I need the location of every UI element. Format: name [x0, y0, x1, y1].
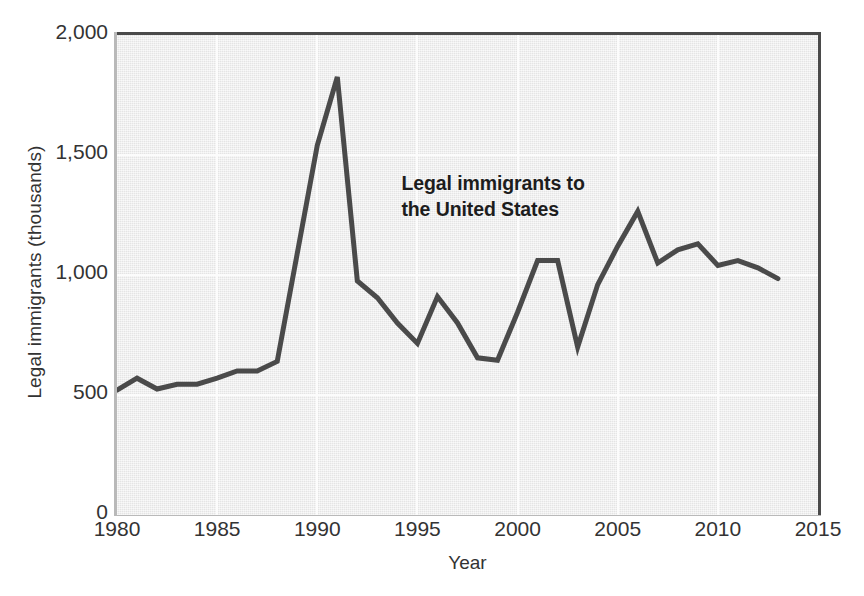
y-tick-label: 1,000: [8, 261, 108, 282]
series-line-legal-immigrants: [117, 77, 778, 390]
y-tick-label: 2,000: [8, 21, 108, 42]
y-tick-label: 500: [8, 381, 108, 402]
x-axis-title: Year: [117, 552, 818, 574]
data-series-svg: [117, 35, 818, 515]
series-annotation-label: Legal immigrants to the United States: [401, 171, 584, 222]
x-axis-tick-labels: 19801985199019952000200520102015: [0, 518, 864, 552]
y-axis-tick-labels: 05001,0001,5002,000: [0, 0, 108, 596]
x-tick-label: 2015: [758, 518, 864, 539]
y-tick-label: 1,500: [8, 141, 108, 162]
plot-area: [117, 32, 821, 515]
line-chart-figure: Legal immigrants (thousands) 05001,0001,…: [0, 0, 864, 596]
